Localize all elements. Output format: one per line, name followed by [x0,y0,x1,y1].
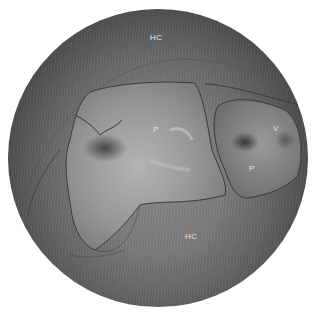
label-v-right: V [273,124,279,133]
label-p-right: P [249,164,255,173]
label-hc-top: HC [150,33,163,42]
region-outlines [0,0,315,314]
label-hc-bottom: HC [185,232,198,241]
label-p-center: P [153,125,159,134]
region-p-center [66,82,226,250]
